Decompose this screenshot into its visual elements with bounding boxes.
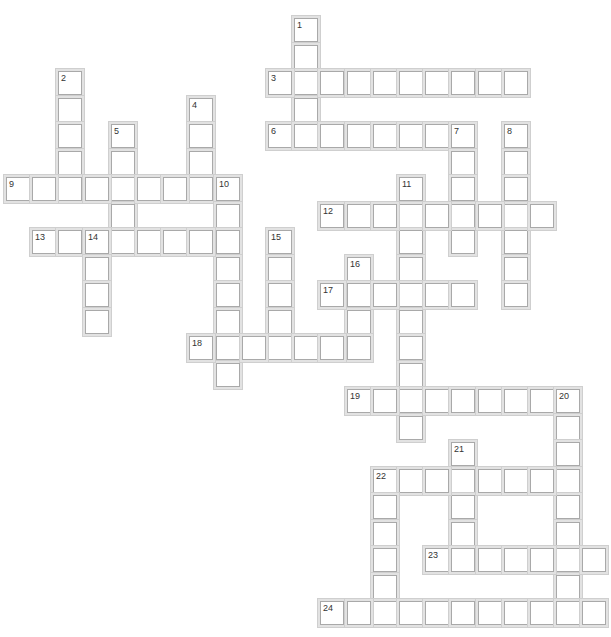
crossword-cell[interactable] <box>216 283 240 307</box>
crossword-cell[interactable]: 13 <box>32 230 56 254</box>
crossword-cell[interactable] <box>556 548 580 572</box>
crossword-cell[interactable] <box>478 204 502 228</box>
crossword-cell[interactable]: 8 <box>504 124 528 148</box>
crossword-cell[interactable] <box>137 177 161 201</box>
crossword-cell[interactable]: 7 <box>451 124 475 148</box>
crossword-cell[interactable] <box>451 230 475 254</box>
crossword-cell[interactable] <box>582 548 606 572</box>
crossword-cell[interactable] <box>268 283 292 307</box>
crossword-cell[interactable] <box>85 177 109 201</box>
crossword-cell[interactable] <box>399 336 423 360</box>
crossword-cell[interactable] <box>530 601 554 625</box>
crossword-cell[interactable] <box>451 151 475 175</box>
crossword-cell[interactable] <box>478 601 502 625</box>
crossword-cell[interactable] <box>189 151 213 175</box>
crossword-cell[interactable] <box>504 548 528 572</box>
crossword-cell[interactable] <box>399 469 423 493</box>
crossword-cell[interactable] <box>478 469 502 493</box>
crossword-cell[interactable] <box>399 310 423 334</box>
crossword-cell[interactable] <box>373 548 397 572</box>
crossword-cell[interactable] <box>556 469 580 493</box>
crossword-cell[interactable] <box>373 522 397 546</box>
crossword-cell[interactable] <box>163 177 187 201</box>
crossword-cell[interactable] <box>399 204 423 228</box>
crossword-cell[interactable] <box>530 469 554 493</box>
crossword-cell[interactable] <box>85 310 109 334</box>
crossword-cell[interactable] <box>451 389 475 413</box>
crossword-cell[interactable] <box>504 283 528 307</box>
crossword-cell[interactable] <box>137 230 161 254</box>
crossword-cell[interactable] <box>320 336 344 360</box>
crossword-cell[interactable] <box>189 230 213 254</box>
crossword-cell[interactable] <box>504 601 528 625</box>
crossword-cell[interactable] <box>425 204 449 228</box>
crossword-cell[interactable]: 20 <box>556 389 580 413</box>
crossword-cell[interactable] <box>216 336 240 360</box>
crossword-cell[interactable]: 2 <box>58 71 82 95</box>
crossword-cell[interactable] <box>399 363 423 387</box>
crossword-cell[interactable] <box>294 98 318 122</box>
crossword-cell[interactable] <box>320 124 344 148</box>
crossword-cell[interactable] <box>399 601 423 625</box>
crossword-cell[interactable] <box>373 124 397 148</box>
crossword-cell[interactable] <box>189 124 213 148</box>
crossword-cell[interactable]: 10 <box>216 177 240 201</box>
crossword-cell[interactable] <box>373 389 397 413</box>
crossword-cell[interactable] <box>399 416 423 440</box>
crossword-cell[interactable] <box>451 177 475 201</box>
crossword-cell[interactable]: 23 <box>425 548 449 572</box>
crossword-cell[interactable] <box>556 601 580 625</box>
crossword-cell[interactable] <box>216 204 240 228</box>
crossword-cell[interactable] <box>85 283 109 307</box>
crossword-cell[interactable]: 19 <box>347 389 371 413</box>
crossword-cell[interactable] <box>504 257 528 281</box>
crossword-cell[interactable] <box>189 177 213 201</box>
crossword-cell[interactable] <box>216 230 240 254</box>
crossword-cell[interactable] <box>451 283 475 307</box>
crossword-cell[interactable] <box>111 151 135 175</box>
crossword-cell[interactable] <box>268 310 292 334</box>
crossword-cell[interactable] <box>347 124 371 148</box>
crossword-cell[interactable] <box>58 124 82 148</box>
crossword-cell[interactable] <box>451 601 475 625</box>
crossword-cell[interactable] <box>530 389 554 413</box>
crossword-cell[interactable]: 18 <box>189 336 213 360</box>
crossword-cell[interactable]: 17 <box>320 283 344 307</box>
crossword-cell[interactable] <box>347 283 371 307</box>
crossword-cell[interactable]: 24 <box>320 601 344 625</box>
crossword-cell[interactable] <box>85 257 109 281</box>
crossword-cell[interactable] <box>451 548 475 572</box>
crossword-cell[interactable] <box>268 257 292 281</box>
crossword-cell[interactable] <box>504 204 528 228</box>
crossword-cell[interactable] <box>242 336 266 360</box>
crossword-cell[interactable] <box>111 230 135 254</box>
crossword-cell[interactable] <box>294 45 318 69</box>
crossword-cell[interactable] <box>373 575 397 599</box>
crossword-cell[interactable]: 1 <box>294 18 318 42</box>
crossword-cell[interactable]: 12 <box>320 204 344 228</box>
crossword-cell[interactable] <box>504 71 528 95</box>
crossword-cell[interactable] <box>216 257 240 281</box>
crossword-cell[interactable] <box>347 310 371 334</box>
crossword-cell[interactable] <box>294 71 318 95</box>
crossword-cell[interactable] <box>347 601 371 625</box>
crossword-cell[interactable] <box>111 177 135 201</box>
crossword-cell[interactable] <box>373 601 397 625</box>
crossword-cell[interactable] <box>320 71 344 95</box>
crossword-cell[interactable] <box>530 548 554 572</box>
crossword-cell[interactable] <box>504 230 528 254</box>
crossword-cell[interactable]: 21 <box>451 442 475 466</box>
crossword-cell[interactable]: 4 <box>189 98 213 122</box>
crossword-cell[interactable] <box>373 495 397 519</box>
crossword-cell[interactable] <box>111 204 135 228</box>
crossword-cell[interactable] <box>504 469 528 493</box>
crossword-cell[interactable] <box>32 177 56 201</box>
crossword-cell[interactable] <box>504 389 528 413</box>
crossword-cell[interactable] <box>478 389 502 413</box>
crossword-cell[interactable]: 16 <box>347 257 371 281</box>
crossword-cell[interactable] <box>556 442 580 466</box>
crossword-cell[interactable]: 14 <box>85 230 109 254</box>
crossword-cell[interactable] <box>216 363 240 387</box>
crossword-cell[interactable] <box>451 522 475 546</box>
crossword-cell[interactable] <box>478 548 502 572</box>
